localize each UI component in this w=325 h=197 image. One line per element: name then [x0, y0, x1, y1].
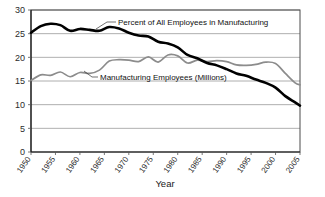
- y-tick-label: 20: [15, 53, 25, 63]
- x-axis-title: Year: [155, 178, 174, 189]
- y-tick-label: 25: [15, 29, 25, 39]
- series-label-manufacturing-employees: Manufacturing Employees (Millions): [100, 73, 227, 82]
- x-tick-label: 1980: [162, 155, 180, 175]
- y-tick-labels: 051015202530: [15, 5, 31, 157]
- x-tick-label: 1995: [235, 155, 253, 175]
- y-tick-label: 15: [15, 76, 25, 86]
- x-tick-label: 1960: [64, 155, 82, 175]
- x-tick-label: 2005: [284, 155, 302, 175]
- x-tick-label: 1965: [88, 155, 106, 175]
- x-tick-label: 1975: [137, 155, 155, 175]
- y-tick-label: 30: [15, 5, 25, 15]
- x-tick-label: 1970: [113, 155, 131, 175]
- y-tick-label: 10: [15, 100, 25, 110]
- chart-container: 051015202530 195019551960196519701975198…: [0, 0, 325, 197]
- x-tick-label: 2000: [260, 155, 278, 175]
- x-tick-label: 1950: [15, 155, 33, 175]
- line-chart: 051015202530 195019551960196519701975198…: [0, 0, 325, 197]
- x-tick-label: 1955: [40, 155, 58, 175]
- x-tick-label: 1985: [186, 155, 204, 175]
- x-tick-labels: 1950195519601965197019751980198519901995…: [15, 155, 302, 175]
- y-tick-label: 5: [20, 124, 25, 134]
- x-tick-label: 1990: [211, 155, 229, 175]
- series-label-percent-of-all-employees: Percent of All Employees in Manufacturin…: [118, 18, 268, 27]
